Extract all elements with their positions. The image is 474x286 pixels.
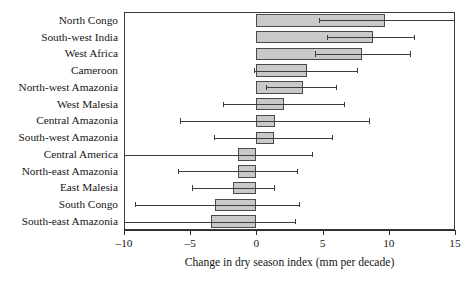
- error-bar: [192, 188, 274, 189]
- y-axis-label: West Africa: [0, 48, 118, 59]
- x-axis-tick: [256, 230, 257, 235]
- error-bar: [135, 205, 299, 206]
- error-bar: [315, 54, 410, 55]
- x-axis-tick-label: –10: [104, 237, 144, 249]
- x-axis-title: Change in dry season index (mm per decad…: [124, 256, 455, 269]
- error-bar-cap: [369, 118, 370, 123]
- error-bar-cap: [299, 202, 300, 207]
- error-bar-cap: [266, 85, 267, 90]
- error-bar: [178, 171, 297, 172]
- error-bar-cap: [344, 102, 345, 107]
- x-axis-tick-label: 0: [236, 237, 276, 249]
- error-bar-cap: [410, 51, 411, 56]
- plot-area: [124, 12, 455, 230]
- error-bar-cap: [414, 35, 415, 40]
- x-axis-tick: [124, 230, 125, 235]
- error-bar-cap: [336, 85, 337, 90]
- y-axis-label: North Congo: [0, 15, 118, 26]
- error-bar-cap: [295, 219, 296, 224]
- error-bar: [223, 104, 343, 105]
- y-axis-category-labels: North CongoSouth-west IndiaWest AfricaCa…: [0, 12, 122, 230]
- x-axis-tick-label: 15: [435, 237, 474, 249]
- x-axis-tick: [190, 230, 191, 235]
- y-axis-label: South-west Amazonia: [0, 132, 118, 143]
- error-bar: [124, 222, 295, 223]
- x-axis-line: [124, 230, 455, 231]
- y-axis-label: West Malesia: [0, 99, 118, 110]
- error-bar: [124, 155, 312, 156]
- error-bar-cap: [357, 68, 358, 73]
- error-bar-cap: [327, 35, 328, 40]
- x-axis-tick: [323, 230, 324, 235]
- error-bar: [319, 20, 455, 21]
- dry-season-index-chart: North CongoSouth-west IndiaWest AfricaCa…: [0, 0, 474, 286]
- error-bar-cap: [214, 135, 215, 140]
- error-bar-cap: [274, 185, 275, 190]
- error-bar-cap: [254, 68, 255, 73]
- y-axis-label: North-east Amazonia: [0, 166, 118, 177]
- y-axis-label: South-east Amazonia: [0, 216, 118, 227]
- error-bar-cap: [178, 169, 179, 174]
- y-axis-label: North-west Amazonia: [0, 82, 118, 93]
- x-axis-tick: [455, 230, 456, 235]
- error-bar-cap: [223, 102, 224, 107]
- y-axis-label: East Malesia: [0, 182, 118, 193]
- error-bar: [214, 138, 332, 139]
- x-axis-tick-label: 5: [303, 237, 343, 249]
- error-bar: [327, 37, 414, 38]
- error-bar-cap: [297, 169, 298, 174]
- error-bar-cap: [332, 135, 333, 140]
- error-bar-cap: [312, 152, 313, 157]
- error-bar-cap: [135, 202, 136, 207]
- y-axis-label: South-west India: [0, 32, 118, 43]
- error-bar: [266, 87, 336, 88]
- error-bar-cap: [315, 51, 316, 56]
- x-axis-tick-label: 10: [369, 237, 409, 249]
- y-axis-label: Central America: [0, 149, 118, 160]
- error-bar: [254, 71, 357, 72]
- y-axis-label: South Congo: [0, 199, 118, 210]
- x-axis-tick-label: –5: [170, 237, 210, 249]
- x-axis-tick: [389, 230, 390, 235]
- y-axis-label: Central Amazonia: [0, 115, 118, 126]
- error-bar: [180, 121, 369, 122]
- error-bar-cap: [319, 18, 320, 23]
- y-axis-label: Cameroon: [0, 65, 118, 76]
- error-bar-cap: [180, 118, 181, 123]
- error-bar-cap: [192, 185, 193, 190]
